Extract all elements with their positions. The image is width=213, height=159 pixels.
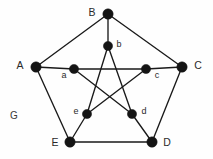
graph-node-C[interactable] bbox=[177, 62, 187, 72]
node-label-b: b bbox=[116, 39, 121, 49]
graph-name-label: G bbox=[10, 110, 18, 121]
graph-node-E[interactable] bbox=[65, 137, 75, 147]
graph-figure: ABCDEabcde G bbox=[0, 0, 213, 159]
node-layer bbox=[31, 9, 187, 147]
graph-edge-d-a bbox=[74, 69, 132, 114]
graph-node-d[interactable] bbox=[127, 109, 136, 118]
graph-node-a[interactable] bbox=[69, 64, 78, 73]
node-label-e: e bbox=[73, 106, 78, 116]
node-label-E: E bbox=[51, 136, 58, 148]
graph-node-c[interactable] bbox=[141, 64, 150, 73]
label-layer: ABCDEabcde bbox=[16, 6, 202, 148]
graph-edge-c-e bbox=[87, 69, 146, 114]
node-label-a: a bbox=[61, 70, 66, 80]
node-label-c: c bbox=[155, 70, 160, 80]
graph-node-B[interactable] bbox=[103, 9, 113, 19]
node-label-A: A bbox=[16, 59, 23, 71]
graph-canvas: ABCDEabcde G bbox=[0, 0, 213, 159]
node-label-C: C bbox=[194, 59, 202, 71]
graph-edge-e-b bbox=[87, 46, 108, 114]
graph-edge-A-B bbox=[36, 14, 108, 67]
graph-node-b[interactable] bbox=[103, 41, 112, 50]
node-label-D: D bbox=[163, 136, 171, 148]
graph-node-A[interactable] bbox=[31, 62, 41, 72]
graph-edge-b-d bbox=[108, 46, 132, 114]
graph-node-e[interactable] bbox=[82, 109, 91, 118]
node-label-B: B bbox=[88, 6, 95, 18]
node-label-d: d bbox=[141, 106, 146, 116]
graph-node-D[interactable] bbox=[147, 137, 157, 147]
graph-edge-A-a bbox=[36, 67, 74, 69]
edge-layer bbox=[36, 14, 182, 142]
